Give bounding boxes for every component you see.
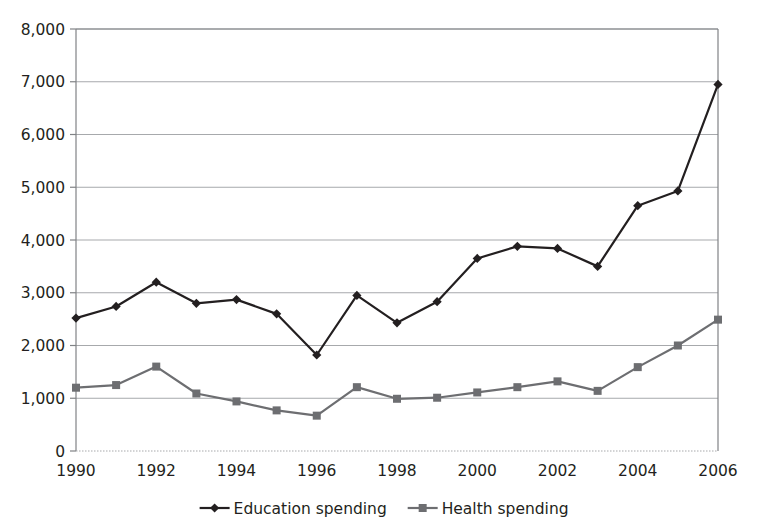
x-axis-tick-label: 1990 bbox=[56, 462, 95, 480]
x-axis-tick-label: 1998 bbox=[377, 462, 416, 480]
series-education-spending bbox=[71, 80, 722, 360]
legend-item-label: Education spending bbox=[234, 500, 387, 518]
y-axis-tick-label: 8,000 bbox=[21, 21, 65, 39]
gridlines bbox=[76, 29, 718, 398]
data-point-marker bbox=[232, 295, 241, 304]
data-point-marker bbox=[71, 313, 80, 322]
legend-marker-icon bbox=[419, 504, 427, 512]
y-axis-tick-labels: 01,0002,0003,0004,0005,0006,0007,0008,00… bbox=[21, 21, 65, 461]
y-axis-tick-label: 5,000 bbox=[21, 179, 65, 197]
data-point-marker bbox=[273, 406, 281, 414]
x-axis-tick-labels: 199019921994199619982000200220042006 bbox=[56, 462, 737, 480]
data-point-marker bbox=[594, 387, 602, 395]
x-axis-tick-label: 2000 bbox=[458, 462, 497, 480]
y-axis-tick-label: 4,000 bbox=[21, 232, 65, 250]
x-axis-tick-label: 1996 bbox=[297, 462, 336, 480]
data-point-marker bbox=[112, 381, 120, 389]
x-axis-tick-label: 2006 bbox=[698, 462, 737, 480]
data-point-marker bbox=[72, 384, 80, 392]
legend-item-education-spending[interactable]: Education spending bbox=[200, 500, 387, 518]
data-point-marker bbox=[393, 395, 401, 403]
data-point-marker bbox=[353, 383, 361, 391]
legend-item-label: Health spending bbox=[442, 500, 569, 518]
y-axis-tick-label: 1,000 bbox=[21, 390, 65, 408]
chart-legend: Education spendingHealth spending bbox=[200, 500, 569, 518]
y-axis-tick-label: 2,000 bbox=[21, 337, 65, 355]
y-axis-tick-label: 6,000 bbox=[21, 126, 65, 144]
data-point-marker bbox=[192, 390, 200, 398]
data-point-marker bbox=[313, 412, 321, 420]
data-point-marker bbox=[713, 80, 722, 89]
data-point-marker bbox=[152, 363, 160, 371]
x-axis-tick-label: 2002 bbox=[538, 462, 577, 480]
x-axis-tick-label: 1994 bbox=[217, 462, 256, 480]
data-point-marker bbox=[674, 342, 682, 350]
x-axis-tick-label: 2004 bbox=[618, 462, 657, 480]
y-axis-tick-label: 3,000 bbox=[21, 284, 65, 302]
data-series-layer bbox=[71, 80, 722, 420]
data-point-marker bbox=[634, 363, 642, 371]
x-axis-tick-label: 1992 bbox=[137, 462, 176, 480]
data-point-marker bbox=[513, 242, 522, 251]
line-chart: 01,0002,0003,0004,0005,0006,0007,0008,00… bbox=[0, 0, 768, 530]
data-point-marker bbox=[233, 397, 241, 405]
series-health-spending bbox=[72, 316, 722, 420]
data-point-marker bbox=[192, 299, 201, 308]
data-point-marker bbox=[473, 388, 481, 396]
data-point-marker bbox=[714, 316, 722, 324]
data-point-marker bbox=[554, 377, 562, 385]
chart-canvas: 01,0002,0003,0004,0005,0006,0007,0008,00… bbox=[0, 0, 768, 530]
series-line bbox=[76, 84, 718, 355]
legend-item-health-spending[interactable]: Health spending bbox=[408, 500, 569, 518]
data-point-marker bbox=[513, 383, 521, 391]
legend-marker-icon bbox=[210, 503, 219, 512]
y-axis-tick-label: 0 bbox=[55, 443, 65, 461]
data-point-marker bbox=[553, 244, 562, 253]
data-point-marker bbox=[433, 394, 441, 402]
y-axis-tick-label: 7,000 bbox=[21, 73, 65, 91]
